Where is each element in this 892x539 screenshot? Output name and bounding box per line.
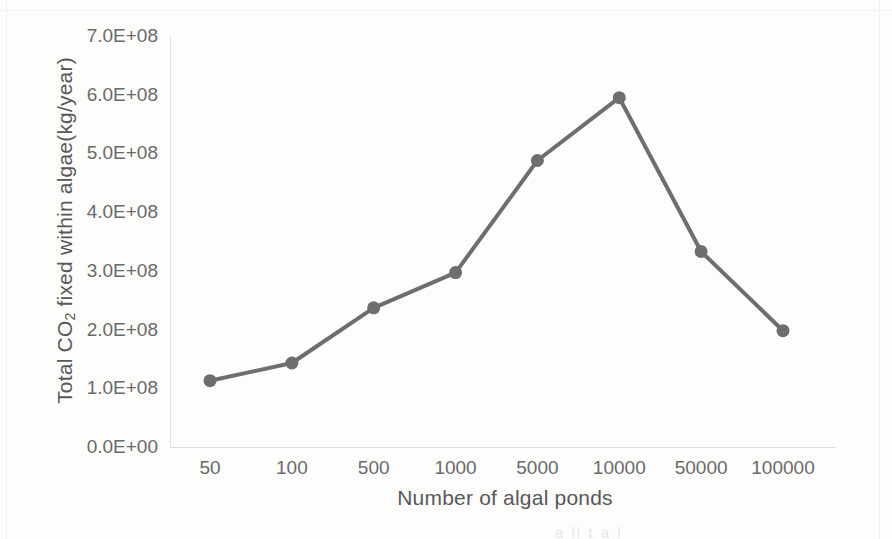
data-series-line bbox=[210, 98, 783, 381]
data-point-marker bbox=[367, 301, 380, 314]
x-axis-tick-label: 1000 bbox=[434, 457, 476, 479]
x-axis-tick-label: 100 bbox=[276, 457, 308, 479]
data-point-marker bbox=[695, 245, 708, 258]
data-point-marker bbox=[613, 91, 626, 104]
x-axis-tick-label: 100000 bbox=[751, 457, 814, 479]
data-point-markers bbox=[204, 91, 790, 387]
chart-page: Total CO2 fixed within algae(kg/year) 0.… bbox=[0, 0, 892, 539]
data-point-marker bbox=[204, 374, 217, 387]
data-point-marker bbox=[285, 357, 298, 370]
x-axis-tick-label: 50000 bbox=[675, 457, 728, 479]
x-axis-tick-label: 50 bbox=[199, 457, 220, 479]
page-bleed-text: a ll t a l bbox=[0, 524, 892, 539]
data-point-marker bbox=[777, 324, 790, 337]
x-axis-tick-label: 5000 bbox=[516, 457, 558, 479]
x-axis-title: Number of algal ponds bbox=[170, 486, 840, 510]
data-point-marker bbox=[531, 154, 544, 167]
x-axis-tick-label: 10000 bbox=[593, 457, 646, 479]
x-axis-tick-label: 500 bbox=[358, 457, 390, 479]
data-point-marker bbox=[449, 266, 462, 279]
